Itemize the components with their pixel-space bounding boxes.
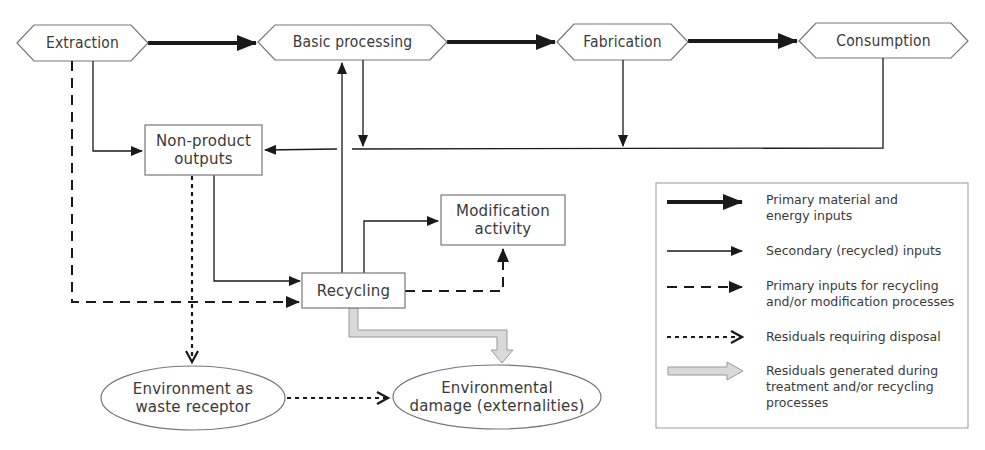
label-extraction: Extraction <box>17 34 148 52</box>
legend-item-dashed-line2: and/or modification processes <box>766 294 966 310</box>
label-non-product-outputs: Non-product outputs <box>145 132 262 168</box>
label-recycling: Recycling <box>302 282 405 300</box>
legend-item-primary-line1: Primary material and <box>766 192 966 208</box>
primary-flow-arrows <box>148 41 797 43</box>
legend-item-secondary: Secondary (recycled) inputs <box>766 243 966 259</box>
legend-item-gray-line1: Residuals generated during <box>766 363 966 379</box>
label-consumption: Consumption <box>799 32 968 50</box>
legend-item-dashed-line1: Primary inputs for recycling <box>766 278 966 294</box>
legend-item-gray-line3: processes <box>766 395 966 411</box>
label-environment-waste-receptor: Environment as waste receptor <box>101 380 285 416</box>
legend-item-dashed: Primary inputs for recycling and/or modi… <box>766 278 966 310</box>
legend-item-dotted: Residuals requiring disposal <box>766 329 966 345</box>
label-basic-processing: Basic processing <box>258 33 447 51</box>
label-non-product-line2: outputs <box>145 150 262 168</box>
legend-item-primary-line2: energy inputs <box>766 208 966 224</box>
label-environmental-damage: Environmental damage (externalities) <box>393 379 601 415</box>
label-environment-line2: waste receptor <box>101 398 285 416</box>
label-modification-activity: Modification activity <box>441 202 565 238</box>
label-damage-line2: damage (externalities) <box>393 397 601 415</box>
legend-item-gray: Residuals generated during treatment and… <box>766 363 966 411</box>
dashed-flow-arrows <box>72 61 503 302</box>
legend-item-dotted-line1: Residuals requiring disposal <box>766 329 966 345</box>
label-modification-line1: Modification <box>441 202 565 220</box>
label-non-product-line1: Non-product <box>145 132 262 150</box>
legend-item-secondary-line1: Secondary (recycled) inputs <box>766 243 966 259</box>
legend-item-primary: Primary material and energy inputs <box>766 192 966 224</box>
label-damage-line1: Environmental <box>393 379 601 397</box>
label-environment-line1: Environment as <box>101 380 285 398</box>
label-fabrication: Fabrication <box>557 33 688 51</box>
legend-item-gray-line2: treatment and/or recycling <box>766 379 966 395</box>
gray-residual-arrow <box>349 308 513 363</box>
label-modification-line2: activity <box>441 220 565 238</box>
